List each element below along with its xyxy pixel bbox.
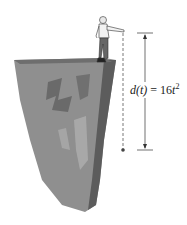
cliff: [0, 55, 116, 215]
equation-exponent: 2: [175, 82, 179, 91]
distance-equation: d(t) = 16t2: [129, 82, 180, 98]
rock-dot: [121, 148, 125, 152]
equation-lhs: d(t): [130, 83, 147, 97]
equation-equals: =: [150, 83, 157, 97]
equation-coefficient: 16: [160, 83, 172, 97]
cliff-diagram: [0, 0, 187, 225]
man-figure: [96, 17, 124, 63]
